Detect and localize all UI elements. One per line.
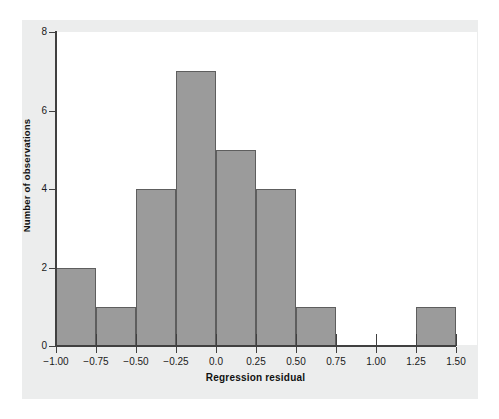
histogram-bar bbox=[296, 307, 336, 346]
x-axis-tick bbox=[416, 347, 417, 353]
figure-root: 02468 −1.00−0.75−0.50−0.250.00.250.500.7… bbox=[0, 0, 499, 419]
x-axis-tick bbox=[256, 347, 257, 353]
x-axis-inner-tick bbox=[456, 334, 457, 346]
y-axis-tick-label: 0 bbox=[25, 341, 47, 351]
y-axis-line bbox=[55, 31, 57, 346]
histogram-bar bbox=[96, 307, 136, 346]
x-axis-inner-tick bbox=[296, 334, 297, 346]
x-axis-tick-label: 0.50 bbox=[274, 356, 318, 367]
x-axis-tick-label: 0.25 bbox=[234, 356, 278, 367]
histogram-bar bbox=[136, 189, 176, 346]
x-axis-inner-tick bbox=[216, 334, 217, 346]
histogram-bar bbox=[216, 150, 256, 346]
x-axis-tick-label: −0.50 bbox=[114, 356, 158, 367]
x-axis-tick bbox=[56, 347, 57, 353]
histogram-bar bbox=[176, 71, 216, 346]
x-axis-tick-label: 1.00 bbox=[354, 356, 398, 367]
y-axis-tick bbox=[49, 346, 55, 347]
x-axis-tick bbox=[336, 347, 337, 353]
x-axis-inner-tick bbox=[56, 334, 57, 346]
x-axis-inner-tick bbox=[176, 334, 177, 346]
histogram-bar bbox=[56, 268, 96, 347]
x-axis-tick bbox=[456, 347, 457, 353]
histogram-bar bbox=[256, 189, 296, 346]
x-axis-inner-tick bbox=[376, 334, 377, 346]
x-axis-tick-label: −0.25 bbox=[154, 356, 198, 367]
x-axis-tick-label: −1.00 bbox=[34, 356, 78, 367]
x-axis-tick-label: −0.75 bbox=[74, 356, 118, 367]
y-axis-tick bbox=[49, 32, 55, 33]
x-axis-inner-tick bbox=[96, 334, 97, 346]
x-axis-tick bbox=[136, 347, 137, 353]
x-axis-tick-label: 0.75 bbox=[314, 356, 358, 367]
y-axis-title: Number of observations bbox=[21, 96, 32, 256]
x-axis-title: Regression residual bbox=[55, 372, 456, 383]
y-axis-tick-label: 2 bbox=[25, 263, 47, 273]
x-axis-inner-tick bbox=[256, 334, 257, 346]
x-axis-tick bbox=[296, 347, 297, 353]
x-axis-tick-label: 1.50 bbox=[434, 356, 478, 367]
x-axis-tick bbox=[96, 347, 97, 353]
x-axis-inner-tick bbox=[416, 334, 417, 346]
x-axis-tick bbox=[216, 347, 217, 353]
y-axis-tick bbox=[49, 268, 55, 269]
y-axis-tick bbox=[49, 111, 55, 112]
x-axis-tick-label: 1.25 bbox=[394, 356, 438, 367]
x-axis-inner-tick bbox=[336, 334, 337, 346]
x-axis-tick bbox=[376, 347, 377, 353]
histogram-bar bbox=[416, 307, 456, 346]
x-axis-tick bbox=[176, 347, 177, 353]
x-axis-tick-label: 0.0 bbox=[194, 356, 238, 367]
x-axis-inner-tick bbox=[136, 334, 137, 346]
y-axis-tick-label: 8 bbox=[25, 27, 47, 37]
y-axis-tick bbox=[49, 189, 55, 190]
